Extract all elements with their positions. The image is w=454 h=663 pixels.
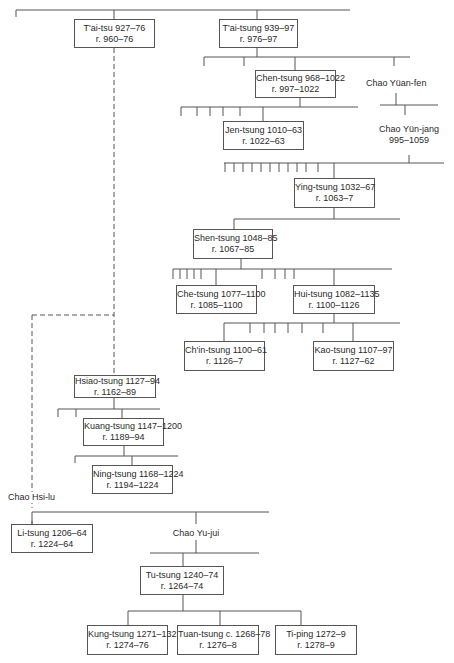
person-reign: r. 1022–63 xyxy=(224,136,303,147)
person-name: Chao Yu-jui xyxy=(173,528,219,538)
person-reign: r. 1278–9 xyxy=(276,640,356,651)
person-kungtsung: Kung-tsung 1271–1323 r. 1274–76 xyxy=(87,625,168,655)
person-name: Kao-tsung 1107–97 xyxy=(314,345,393,356)
person-name: Che-tsung 1077–1100 xyxy=(177,289,256,300)
person-reign: r. 1189–94 xyxy=(84,432,163,443)
person-dates: 995–1059 xyxy=(374,135,444,146)
person-reign: r. 1264–74 xyxy=(141,581,223,592)
person-chintsung: Ch'in-tsung 1100–61 r. 1126–7 xyxy=(184,341,265,371)
person-shentsung: Shen-tsung 1048–85 r. 1067–85 xyxy=(193,229,273,259)
person-reign: r. 1100–1126 xyxy=(294,300,374,311)
person-reign: r. 1063–7 xyxy=(295,193,374,204)
person-chentsung: Chen-tsung 968–1022 r. 997–1022 xyxy=(255,70,336,98)
person-name: Hsiao-tsung 1127–94 xyxy=(75,376,155,387)
person-reign: r. 960–76 xyxy=(75,34,154,45)
person-kaotsung: Kao-tsung 1107–97 r. 1127–62 xyxy=(313,341,394,371)
person-tuantsung: Tuan-tsung c. 1268–78 r. 1276–8 xyxy=(177,625,259,655)
person-name: Chao Yün-jang xyxy=(374,124,444,135)
person-reign: r. 1194–1224 xyxy=(93,480,172,491)
person-tutsung: Tu-tsung 1240–74 r. 1264–74 xyxy=(140,566,224,595)
person-name: Ch'in-tsung 1100–61 xyxy=(185,345,264,356)
person-taitsung: T'ai-tsung 939–97 r. 976–97 xyxy=(219,19,298,48)
person-name: Chao Hsi-lu xyxy=(8,492,55,502)
person-ningtsung: Ning-tsung 1168–1224 r. 1194–1224 xyxy=(92,465,173,494)
person-tiping: Ti-ping 1272–9 r. 1278–9 xyxy=(275,625,357,655)
person-name: Li-tsung 1206–64 xyxy=(12,528,92,539)
person-chaohsilu: Chao Hsi-lu xyxy=(8,492,58,503)
person-reign: r. 1126–7 xyxy=(185,356,264,367)
person-name: Shen-tsung 1048–85 xyxy=(194,233,272,244)
person-name: Ying-tsung 1032–67 xyxy=(295,182,374,193)
person-name: Hui-tsung 1082–1135 xyxy=(294,289,374,300)
person-jentsung: Jen-tsung 1010–63 r. 1022–63 xyxy=(223,121,304,150)
person-name: T'ai-tsung 939–97 xyxy=(220,23,297,34)
person-reign: r. 1224–64 xyxy=(12,539,92,550)
person-reign: r. 1127–62 xyxy=(314,356,393,367)
person-chaoyunjang: Chao Yün-jang 995–1059 xyxy=(374,124,444,146)
person-reign: r. 1067–85 xyxy=(194,244,272,255)
person-hsiaotsung: Hsiao-tsung 1127–94 r. 1162–89 xyxy=(74,375,156,398)
person-chaoyuanfen: Chao Yüan-fen xyxy=(366,78,426,89)
person-reign: r. 976–97 xyxy=(220,34,297,45)
person-name: Ning-tsung 1168–1224 xyxy=(93,469,172,480)
connector-lines xyxy=(0,0,454,663)
person-name: Chao Yüan-fen xyxy=(366,78,426,88)
person-name: Kung-tsung 1271–1323 xyxy=(88,629,167,640)
person-name: Chen-tsung 968–1022 xyxy=(256,73,335,84)
person-name: Kuang-tsung 1147–1200 xyxy=(84,421,163,432)
person-reign: r. 1162–89 xyxy=(75,387,155,398)
person-reign: r. 1274–76 xyxy=(88,640,167,651)
person-chaoyujui: Chao Yu-jui xyxy=(166,528,226,539)
person-reign: r. 997–1022 xyxy=(256,84,335,95)
person-name: Jen-tsung 1010–63 xyxy=(224,125,303,136)
person-taitsu: T'ai-tsu 927–76 r. 960–76 xyxy=(74,19,155,48)
person-reign: r. 1276–8 xyxy=(178,640,258,651)
person-name: T'ai-tsu 927–76 xyxy=(75,23,154,34)
person-litsung: Li-tsung 1206–64 r. 1224–64 xyxy=(11,524,93,553)
person-name: Tu-tsung 1240–74 xyxy=(141,570,223,581)
person-name: Ti-ping 1272–9 xyxy=(276,629,356,640)
person-chetsung: Che-tsung 1077–1100 r. 1085–1100 xyxy=(176,285,257,314)
person-reign: r. 1085–1100 xyxy=(177,300,256,311)
person-huitsung: Hui-tsung 1082–1135 r. 1100–1126 xyxy=(293,285,375,314)
person-yingtsung: Ying-tsung 1032–67 r. 1063–7 xyxy=(294,178,375,208)
person-kuangtsung: Kuang-tsung 1147–1200 r. 1189–94 xyxy=(83,418,164,446)
person-name: Tuan-tsung c. 1268–78 xyxy=(178,629,258,640)
